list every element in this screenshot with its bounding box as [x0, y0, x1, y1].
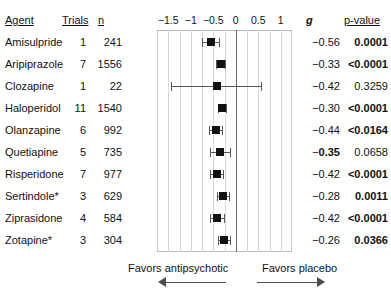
trials-count: 3 — [62, 234, 86, 246]
header-g: g — [306, 14, 313, 26]
header-pvalue: p-value — [344, 14, 380, 26]
effect-size-marker — [213, 214, 221, 222]
sample-size: 735 — [90, 146, 122, 158]
ci-cap-low — [210, 148, 211, 157]
effect-size-g: −0.42 — [306, 80, 340, 92]
p-value: 0.3259 — [344, 80, 388, 92]
agent-name: Risperidone — [5, 168, 64, 180]
arrow-left-icon — [158, 276, 226, 288]
trials-count: 6 — [62, 124, 86, 136]
effect-size-marker — [212, 126, 220, 134]
ci-cap-high — [230, 148, 231, 157]
sample-size: 977 — [90, 168, 122, 180]
forest-row — [157, 120, 292, 142]
effect-size-marker — [216, 148, 224, 156]
sample-size: 1540 — [90, 102, 122, 114]
agent-name: Olanzapine — [5, 124, 61, 136]
forest-row — [157, 32, 292, 54]
effect-size-marker — [217, 60, 225, 68]
ci-cap-high — [225, 60, 226, 69]
effect-size-g: −0.33 — [306, 58, 340, 70]
effect-size-marker — [213, 170, 221, 178]
header-n: n — [98, 14, 104, 26]
trials-count: 4 — [62, 212, 86, 224]
p-value: <0.0001 — [344, 102, 388, 114]
effect-size-g: −0.42 — [306, 212, 340, 224]
agent-name: Clozapine — [5, 80, 54, 92]
header-agent: Agent — [5, 14, 34, 26]
ci-cap-low — [171, 82, 172, 91]
trials-count: 11 — [62, 102, 86, 114]
p-value: <0.0001 — [344, 58, 388, 70]
arrow-right-icon — [257, 276, 325, 288]
ci-cap-low — [218, 236, 219, 245]
sample-size: 1556 — [90, 58, 122, 70]
forest-row — [157, 54, 292, 76]
p-value: <0.0001 — [344, 212, 388, 224]
ci-cap-low — [210, 170, 211, 179]
p-value: <0.0164 — [344, 124, 388, 136]
sample-size: 992 — [90, 124, 122, 136]
effect-size-marker — [213, 82, 221, 90]
header-trials: Trials — [62, 14, 88, 26]
sample-size: 584 — [90, 212, 122, 224]
ci-cap-low — [209, 126, 210, 135]
agent-name: Ziprasidone — [5, 212, 62, 224]
forest-row — [157, 98, 292, 120]
forest-row — [157, 76, 292, 98]
forest-plot-figure: Agent Trials n g p-value −1.5−1−0.500.51… — [0, 0, 391, 291]
plot-area — [157, 30, 292, 252]
forest-row — [157, 186, 292, 208]
sample-size: 22 — [90, 80, 122, 92]
ci-cap-high — [261, 82, 262, 91]
trials-count: 1 — [62, 80, 86, 92]
p-value: 0.0001 — [344, 36, 388, 48]
favors-antipsychotic-label: Favors antipsychotic — [128, 262, 228, 274]
agent-name: Amisulpride — [5, 36, 62, 48]
trials-count: 3 — [62, 190, 86, 202]
ci-cap-high — [230, 236, 231, 245]
effect-size-g: −0.44 — [306, 124, 340, 136]
ci-cap-high — [229, 192, 230, 201]
sample-size: 241 — [90, 36, 122, 48]
agent-name: Quetiapine — [5, 146, 58, 158]
agent-name: Aripiprazole — [5, 58, 63, 70]
forest-row — [157, 142, 292, 164]
ci-cap-high — [226, 104, 227, 113]
x-tick-label: 1 — [266, 14, 296, 26]
effect-size-g: −0.35 — [306, 146, 340, 158]
trials-count: 1 — [62, 36, 86, 48]
p-value: 0.0011 — [344, 190, 388, 202]
effect-size-marker — [207, 38, 215, 46]
forest-row — [157, 164, 292, 186]
ci-cap-high — [222, 126, 223, 135]
effect-size-marker — [219, 192, 227, 200]
favors-placebo-label: Favors placebo — [262, 262, 337, 274]
ci-cap-low — [210, 214, 211, 223]
effect-size-g: −0.42 — [306, 168, 340, 180]
ci-cap-high — [223, 170, 224, 179]
sample-size: 629 — [90, 190, 122, 202]
effect-size-marker — [218, 104, 226, 112]
p-value: 0.0366 — [344, 234, 388, 246]
effect-size-g: −0.28 — [306, 190, 340, 202]
ci-cap-low — [217, 192, 218, 201]
effect-size-g: −0.56 — [306, 36, 340, 48]
agent-name: Haloperidol — [5, 102, 61, 114]
trials-count: 5 — [62, 146, 86, 158]
forest-row — [157, 230, 292, 252]
effect-size-g: −0.26 — [306, 234, 340, 246]
effect-size-marker — [220, 236, 228, 244]
forest-row — [157, 208, 292, 230]
sample-size: 304 — [90, 234, 122, 246]
agent-name: Zotapine* — [5, 234, 52, 246]
agent-name: Sertindole* — [5, 190, 59, 202]
trials-count: 7 — [62, 58, 86, 70]
ci-cap-low — [202, 38, 203, 47]
ci-cap-high — [224, 214, 225, 223]
ci-cap-high — [219, 38, 220, 47]
trials-count: 7 — [62, 168, 86, 180]
p-value: 0.0658 — [344, 146, 388, 158]
effect-size-g: −0.30 — [306, 102, 340, 114]
p-value: <0.0001 — [344, 168, 388, 180]
